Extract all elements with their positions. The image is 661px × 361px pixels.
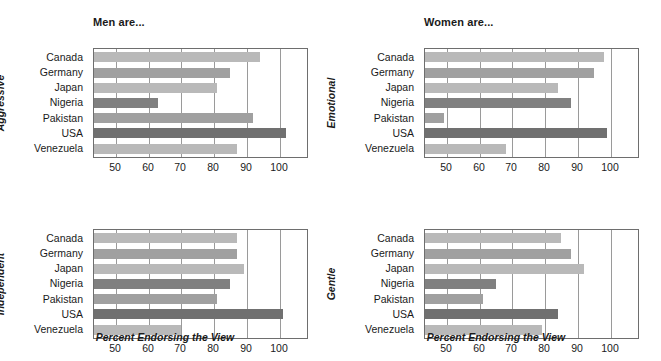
category-label: Pakistan <box>0 111 88 126</box>
bar-row <box>425 111 638 126</box>
bar-row <box>425 65 638 80</box>
bar-germany <box>425 68 594 78</box>
category-label: Canada <box>331 50 419 65</box>
bar-row <box>94 292 307 307</box>
bar-series <box>94 49 307 157</box>
x-tick-label: 90 <box>571 342 583 354</box>
category-label: Canada <box>0 50 88 65</box>
x-axis-tick-labels: 5060708090100 <box>93 161 308 177</box>
category-label: Canada <box>331 231 419 246</box>
bar-row <box>94 261 307 276</box>
plot-area <box>424 229 639 339</box>
bar-canada <box>425 233 561 243</box>
bar-pakistan <box>94 294 217 304</box>
bar-row <box>425 95 638 110</box>
bar-row <box>94 141 307 156</box>
x-tick-label: 100 <box>270 161 288 173</box>
bar-series <box>425 49 638 157</box>
bar-venezuela <box>425 144 506 154</box>
bar-japan <box>94 83 217 93</box>
bar-row <box>94 65 307 80</box>
category-label: Pakistan <box>0 292 88 307</box>
bar-japan <box>94 264 244 274</box>
category-label: Japan <box>0 80 88 95</box>
x-tick-label: 50 <box>109 342 121 354</box>
plot-area <box>93 48 308 158</box>
bar-venezuela <box>94 144 237 154</box>
bar-usa <box>94 309 283 319</box>
bar-germany <box>425 249 571 259</box>
bar-nigeria <box>94 279 230 289</box>
chart-panel-gentle: GentleCanadaGermanyJapanNigeriaPakistanU… <box>331 181 661 361</box>
x-axis-title: Percent Endorsing the View <box>0 331 330 343</box>
bar-canada <box>94 52 260 62</box>
chart-panel-independent: IndependentCanadaGermanyJapanNigeriaPaki… <box>0 181 330 361</box>
category-label: Germany <box>0 246 88 261</box>
bar-germany <box>94 249 237 259</box>
bar-usa <box>425 128 607 138</box>
bar-nigeria <box>425 98 571 108</box>
bar-row <box>94 111 307 126</box>
bar-row <box>425 261 638 276</box>
bar-row <box>425 276 638 291</box>
bar-row <box>94 126 307 141</box>
x-tick-label: 50 <box>109 161 121 173</box>
bar-nigeria <box>94 98 158 108</box>
x-tick-label: 50 <box>440 161 452 173</box>
bar-row <box>94 246 307 261</box>
x-tick-label: 80 <box>538 342 550 354</box>
category-label: Nigeria <box>331 276 419 291</box>
bar-row <box>94 50 307 65</box>
chart-panel-aggressive: Men are...AggressiveCanadaGermanyJapanNi… <box>0 0 330 180</box>
bar-row <box>94 80 307 95</box>
bar-row <box>425 292 638 307</box>
bar-usa <box>94 128 286 138</box>
bar-row <box>425 246 638 261</box>
category-label: Germany <box>0 65 88 80</box>
bar-row <box>425 231 638 246</box>
x-tick-label: 50 <box>440 342 452 354</box>
bar-germany <box>94 68 230 78</box>
x-axis-title: Percent Endorsing the View <box>331 331 661 343</box>
bar-pakistan <box>425 113 444 123</box>
category-label-list: CanadaGermanyJapanNigeriaPakistanUSAVene… <box>331 229 419 339</box>
bar-row <box>94 231 307 246</box>
bar-pakistan <box>425 294 483 304</box>
bar-usa <box>425 309 558 319</box>
category-label: Pakistan <box>331 111 419 126</box>
x-tick-label: 100 <box>270 342 288 354</box>
x-tick-label: 80 <box>538 161 550 173</box>
category-label: USA <box>331 126 419 141</box>
x-tick-label: 70 <box>174 161 186 173</box>
x-tick-label: 90 <box>240 161 252 173</box>
bar-row <box>94 276 307 291</box>
category-label-list: CanadaGermanyJapanNigeriaPakistanUSAVene… <box>0 48 88 158</box>
plot-area <box>424 48 639 158</box>
category-label: Venezuela <box>0 141 88 156</box>
x-tick-label: 60 <box>473 342 485 354</box>
category-label: USA <box>0 126 88 141</box>
category-label-list: CanadaGermanyJapanNigeriaPakistanUSAVene… <box>0 229 88 339</box>
x-tick-label: 70 <box>174 342 186 354</box>
panel-title: Men are... <box>93 16 145 28</box>
x-axis-tick-labels: 5060708090100 <box>424 342 639 358</box>
bar-row <box>425 126 638 141</box>
x-tick-label: 80 <box>207 161 219 173</box>
x-tick-label: 70 <box>505 342 517 354</box>
x-tick-label: 70 <box>505 161 517 173</box>
panel-title: Women are... <box>424 16 493 28</box>
category-label: Nigeria <box>0 95 88 110</box>
category-label: Germany <box>331 246 419 261</box>
bar-row <box>425 80 638 95</box>
category-label: USA <box>0 307 88 322</box>
chart-panel-emotional: Women are...EmotionalCanadaGermanyJapanN… <box>331 0 661 180</box>
category-label: USA <box>331 307 419 322</box>
x-tick-label: 60 <box>473 161 485 173</box>
category-label-list: CanadaGermanyJapanNigeriaPakistanUSAVene… <box>331 48 419 158</box>
category-label: Canada <box>0 231 88 246</box>
category-label: Pakistan <box>331 292 419 307</box>
x-tick-label: 80 <box>207 342 219 354</box>
x-axis-tick-labels: 5060708090100 <box>424 161 639 177</box>
figure-panel-grid: Men are...AggressiveCanadaGermanyJapanNi… <box>0 0 661 361</box>
category-label: Germany <box>331 65 419 80</box>
